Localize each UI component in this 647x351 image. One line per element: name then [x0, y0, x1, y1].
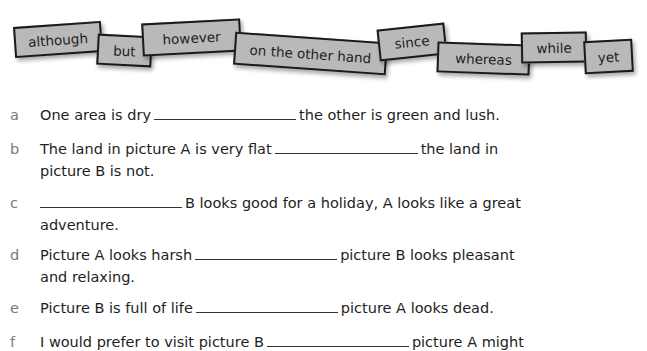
sentence-before: The land in picture A is very flat [40, 141, 272, 157]
answer-blank[interactable] [154, 119, 296, 120]
word-card-label: since [394, 32, 431, 52]
word-card-label: while [536, 39, 572, 56]
answer-blank[interactable] [267, 346, 409, 347]
word-card-label: but [113, 42, 136, 59]
sentence-after: picture A looks dead. [341, 300, 494, 316]
item-text: I would prefer to visit picture Bpicture… [40, 331, 600, 351]
word-card-label: on the other hand [249, 41, 372, 65]
sentence-line2: picture B is not. [40, 163, 154, 179]
sentence-after: the land in [421, 141, 499, 157]
item-letter: c [10, 192, 18, 214]
word-card-while[interactable]: while [521, 31, 588, 63]
sentence-after: B looks good for a holiday, A looks like… [185, 195, 521, 211]
item-text: One area is drythe other is green and lu… [40, 104, 600, 126]
item-text: Picture A looks harshpicture B looks ple… [40, 244, 600, 288]
sentence-before: I would prefer to visit picture B [40, 334, 264, 350]
sentence-before: Picture B is full of life [40, 300, 193, 316]
answer-blank[interactable] [275, 153, 418, 154]
word-card-although[interactable]: although [13, 21, 103, 58]
sentence-before: One area is dry [40, 107, 151, 123]
sentence-line2: adventure. [40, 217, 119, 233]
item-letter: d [10, 244, 19, 266]
sentence-line2: and relaxing. [40, 269, 135, 285]
sentence-before: Picture A looks harsh [40, 247, 192, 263]
word-bank: although but however on the other hand s… [0, 0, 647, 80]
item-letter: e [10, 297, 19, 319]
word-card-label: whereas [455, 50, 512, 68]
word-card-yet[interactable]: yet [583, 39, 634, 75]
word-card-label: however [162, 28, 221, 47]
item-text: Picture B is full of lifepicture A looks… [40, 297, 600, 319]
item-text: B looks good for a holiday, A looks like… [40, 192, 600, 236]
answer-blank[interactable] [40, 207, 182, 208]
word-card-however[interactable]: however [141, 18, 242, 56]
word-card-on-the-other-hand[interactable]: on the other hand [233, 32, 388, 76]
sentence-after: picture A might [412, 334, 524, 350]
item-letter: f [10, 331, 15, 351]
word-card-label: although [28, 29, 89, 49]
answer-blank[interactable] [196, 312, 338, 313]
word-card-label: yet [597, 48, 619, 65]
item-letter: a [10, 104, 19, 126]
item-letter: b [10, 138, 19, 160]
sentence-after: the other is green and lush. [299, 107, 500, 123]
word-card-whereas[interactable]: whereas [436, 41, 530, 75]
answer-blank[interactable] [195, 259, 337, 260]
item-text: The land in picture A is very flatthe la… [40, 138, 600, 182]
sentence-after: picture B looks pleasant [340, 247, 515, 263]
